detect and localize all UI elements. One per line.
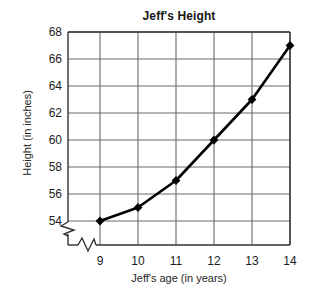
vertical-gridlines xyxy=(100,32,290,245)
y-break-zigzag xyxy=(61,222,74,236)
horizontal-gridlines xyxy=(68,32,290,221)
y-axis-break-icon xyxy=(61,222,74,236)
data-point-9-54[interactable] xyxy=(96,217,105,226)
plot-area xyxy=(0,0,323,296)
chart-container: Jeff's Height Height (in inches) Jeff's … xyxy=(0,0,323,296)
plot-frame xyxy=(68,32,290,245)
x-break-zigzag xyxy=(78,238,96,251)
x-axis-break-icon xyxy=(78,238,96,251)
data-line-jeffs-height xyxy=(100,46,290,222)
data-point-markers xyxy=(96,41,295,225)
